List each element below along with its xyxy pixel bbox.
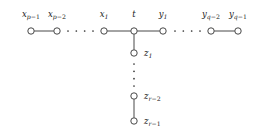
graph-node-xp1 (28, 28, 34, 34)
graph-node-label-t: t (132, 10, 135, 19)
ellipsis-z-path-dot (133, 85, 135, 87)
graph-node-label-x1: x1 (100, 10, 109, 19)
graph-node-z1 (131, 50, 137, 56)
graph-node-yq2 (208, 28, 214, 34)
ellipsis-y-path-dot (182, 30, 184, 32)
ellipsis-x-path-dot (92, 30, 94, 32)
ellipsis-x-path-dot (67, 30, 69, 32)
ellipsis-z-path-dot (133, 70, 135, 72)
graph-node-xp2 (54, 28, 60, 34)
graph-node-label-zr2: zr−2 (144, 92, 161, 101)
graph-node-label-yq2: yq−2 (202, 10, 220, 19)
ellipsis-x-path-dot (84, 30, 86, 32)
graph-figure: xp−1xp−2x1ty1yq−2yq−1z1zr−2zr−1 (0, 0, 262, 132)
ellipsis-x-path-dot (75, 30, 77, 32)
graph-node-x1 (101, 28, 107, 34)
graph-node-label-xp1: xp−1 (22, 10, 40, 19)
graph-node-label-yq1: yq−1 (229, 10, 247, 19)
graph-node-label-zr1: zr−1 (144, 117, 161, 126)
graph-node-yq1 (235, 28, 241, 34)
edge-layer (34, 31, 235, 118)
ellipsis-z-path-dot (133, 63, 135, 65)
node-layer (28, 28, 241, 124)
graph-node-t (131, 28, 137, 34)
graph-node-y1 (160, 28, 166, 34)
graph-node-zr2 (131, 93, 137, 99)
ellipsis-y-path-dot (191, 30, 193, 32)
graph-node-label-y1: y1 (159, 10, 168, 19)
graph-node-zr1 (131, 118, 137, 124)
graph-node-label-z1: z1 (144, 49, 152, 58)
ellipsis-z-path-dot (133, 78, 135, 80)
ellipsis-y-path-dot (174, 30, 176, 32)
ellipsis-y-path-dot (199, 30, 201, 32)
graph-node-label-xp2: xp−2 (48, 10, 66, 19)
